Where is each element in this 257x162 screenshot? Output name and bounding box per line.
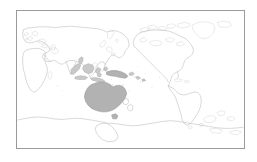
world-map-svg	[17, 11, 244, 148]
ocean-background	[17, 11, 244, 148]
map-frame	[16, 10, 245, 149]
distribution-map-figure	[0, 0, 257, 162]
map-caption	[16, 150, 245, 160]
